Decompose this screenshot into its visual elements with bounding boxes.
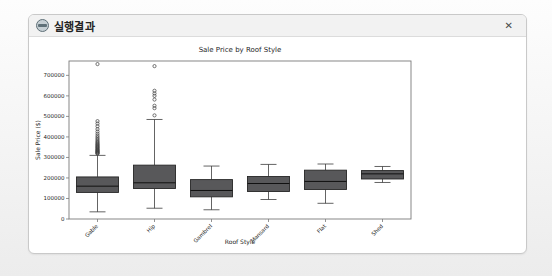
svg-text:700000: 700000	[44, 72, 65, 78]
svg-text:200000: 200000	[44, 175, 65, 181]
svg-text:0: 0	[61, 216, 65, 222]
app-logo-icon	[36, 19, 49, 32]
svg-text:Shed: Shed	[370, 223, 384, 237]
svg-text:Gable: Gable	[84, 223, 100, 239]
svg-text:600000: 600000	[44, 93, 65, 99]
result-window: 실행결과 ✕ Sale Price by Roof Style010000020…	[28, 14, 527, 254]
window-titlebar: 실행결과 ✕	[29, 15, 526, 37]
svg-text:Gambrel: Gambrel	[192, 223, 213, 244]
svg-text:300000: 300000	[44, 154, 65, 160]
svg-text:Mansard: Mansard	[249, 223, 270, 244]
window-title: 실행결과	[54, 18, 95, 34]
boxplot-chart: Sale Price by Roof Style0100000200000300…	[29, 37, 528, 255]
svg-text:Flat: Flat	[316, 222, 328, 234]
svg-text:500000: 500000	[44, 113, 65, 119]
svg-text:Sale Price ($): Sale Price ($)	[34, 120, 41, 160]
close-icon[interactable]: ✕	[502, 20, 516, 32]
chart-area: Sale Price by Roof Style0100000200000300…	[29, 37, 528, 255]
svg-text:Sale Price by Roof Style: Sale Price by Roof Style	[199, 46, 282, 54]
svg-text:100000: 100000	[44, 195, 65, 201]
svg-text:Hip: Hip	[145, 223, 157, 235]
svg-text:400000: 400000	[44, 134, 65, 140]
